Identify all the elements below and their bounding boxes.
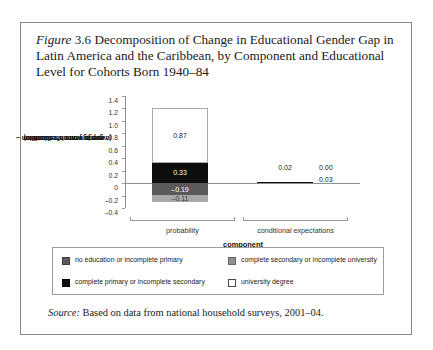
- y-axis-tick-label: 0.8: [109, 134, 118, 141]
- legend-item[interactable]: complete primary or incomplete secondary: [62, 278, 222, 287]
- chart-legend: no education or incomplete primary compl…: [52, 247, 384, 295]
- y-axis-tick-labels: 1.41.21.00.80.60.40.20–0.2–0.4: [96, 96, 122, 208]
- figure-caption: Figure 3.6 Decomposition of Change in Ed…: [36, 32, 396, 81]
- x-axis-group-label: probability: [166, 226, 199, 235]
- y-axis-tick-label: 1.2: [109, 109, 118, 116]
- source-label: Source:: [48, 307, 80, 318]
- legend-swatch-icon: [228, 279, 236, 287]
- y-axis-tick-label: 1.4: [109, 97, 118, 104]
- y-axis-title-line3: average men's education): [24, 134, 105, 142]
- y-axis-tick-label: 0: [114, 184, 118, 191]
- bar-value-label: 0.02: [278, 164, 292, 171]
- source-text: Based on data from national household su…: [83, 307, 324, 318]
- figure-number: 3.6: [75, 32, 91, 47]
- legend-item-label: no education or incomplete primary: [75, 256, 183, 265]
- legend-swatch-icon: [228, 257, 236, 265]
- bar-value-label: 0.33: [173, 169, 187, 176]
- bar-value-label: 0.87: [173, 132, 187, 139]
- bar-segment: [257, 182, 313, 183]
- figure-source: Source: Based on data from national hous…: [48, 307, 388, 318]
- legend-item[interactable]: university degree: [228, 278, 378, 287]
- legend-swatch-icon: [62, 257, 70, 265]
- bar-segment: –0.19: [152, 183, 208, 195]
- y-axis-tick-label: 0.6: [109, 146, 118, 153]
- y-axis-tick-label: 0.2: [109, 171, 118, 178]
- legend-item-label: university degree: [241, 278, 293, 287]
- bar-segment: 0.87: [152, 108, 208, 162]
- y-axis-tick-label: 0.4: [109, 159, 118, 166]
- y-axis-tick-label: –0.4: [105, 209, 118, 216]
- bar-value-label: –0.19: [171, 186, 189, 193]
- legend-item[interactable]: no education or incomplete primary: [62, 256, 212, 265]
- bar-segment: 0.33: [152, 163, 208, 184]
- bar-segment: –0.11: [152, 195, 208, 202]
- figure-label: Figure: [36, 32, 71, 47]
- bar-value-label: 0.03: [319, 175, 333, 182]
- y-axis-tick-label: 1.0: [109, 121, 118, 128]
- bar-value-label: 0.00: [319, 164, 333, 171]
- x-axis-line: [130, 220, 235, 221]
- y-axis-tick-label: –0.2: [105, 196, 118, 203]
- y-axis-line: [125, 96, 126, 208]
- legend-item[interactable]: complete secondary or incomplete univers…: [228, 256, 378, 265]
- legend-item-label: complete primary or incomplete secondary: [75, 278, 205, 287]
- plot-area: 0.330.87–0.19–0.110.020.000.03: [125, 96, 360, 208]
- bar-value-label: –0.11: [172, 195, 189, 202]
- figure-page: Figure 3.6 Decomposition of Change in Ed…: [0, 0, 433, 350]
- y-axis-tick-mark: [122, 208, 125, 209]
- x-axis-line: [243, 220, 348, 221]
- legend-item-label: complete secondary or incomplete univers…: [241, 256, 377, 265]
- x-axis-group-label: conditional expectations: [257, 226, 334, 235]
- legend-swatch-icon: [62, 279, 70, 287]
- chart-plot: gap in years of education (average women…: [0, 92, 433, 237]
